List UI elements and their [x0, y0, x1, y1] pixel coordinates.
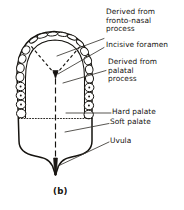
label-line: Incisive foramen	[106, 41, 168, 50]
tooth-pulp-dot	[20, 95, 22, 97]
tooth	[17, 109, 26, 118]
tooth-pulp-dot	[20, 86, 22, 88]
label-line: process	[106, 25, 155, 34]
label-uvula: Uvula	[110, 137, 131, 146]
palate-diagram-svg	[0, 0, 184, 210]
label-derived-fronto-nasal: Derived from fronto-nasal process	[106, 8, 155, 34]
tooth-pulp-dot	[88, 96, 90, 98]
label-hard-palate: Hard palate	[112, 108, 156, 117]
label-line: Soft palate	[110, 118, 151, 127]
tooth-pulp-dot	[88, 87, 90, 89]
anatomical-figure: Derived from fronto-nasal process Incisi…	[0, 0, 184, 210]
label-derived-palatal: Derived from palatal process	[108, 58, 157, 84]
label-line: Uvula	[110, 137, 131, 146]
label-line: process	[108, 75, 157, 84]
tooth-pulp-dot	[20, 104, 22, 106]
tooth	[16, 72, 25, 82]
figure-caption: (b)	[53, 186, 68, 196]
tooth-pulp-dot	[88, 105, 90, 107]
incisor-slit	[47, 32, 57, 37]
label-soft-palate: Soft palate	[110, 118, 151, 127]
tooth	[84, 110, 93, 119]
label-incisive-foramen: Incisive foramen	[106, 41, 168, 50]
label-line: Hard palate	[112, 108, 156, 117]
